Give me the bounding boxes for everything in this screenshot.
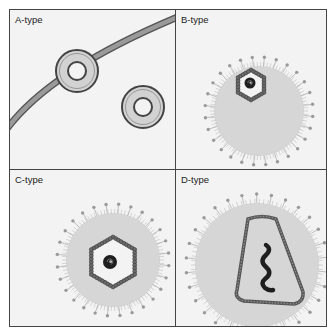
- spike-stalk: [214, 83, 221, 87]
- spike-stalk: [263, 58, 264, 66]
- spike-knob: [323, 285, 326, 288]
- spike-stalk: [190, 244, 198, 246]
- envelope-fringe: [298, 88, 302, 90]
- envelope-fringe: [66, 279, 71, 281]
- envelope-fringe: [201, 230, 205, 233]
- spike-knob: [64, 229, 67, 232]
- spike-stalk: [282, 201, 285, 208]
- spike-stalk: [282, 322, 285, 326]
- spike-knob: [303, 137, 306, 140]
- envelope-fringe: [133, 301, 135, 305]
- spike-knob: [58, 240, 61, 243]
- spike-stalk: [118, 205, 119, 213]
- spike-stalk: [252, 58, 253, 66]
- envelope-fringe: [228, 320, 230, 324]
- spike-knob: [118, 314, 121, 317]
- envelope-fringe: [216, 132, 220, 134]
- spike-knob: [141, 211, 144, 214]
- spike-stalk: [95, 305, 98, 313]
- spike-knob: [240, 194, 243, 197]
- spike-stalk: [61, 276, 69, 279]
- envelope-fringe: [286, 72, 289, 76]
- spike-knob: [82, 306, 85, 309]
- envelope-fringe: [214, 91, 219, 93]
- spike-knob: [270, 194, 273, 197]
- panel-d-type: D-type: [176, 170, 326, 326]
- spike-knob: [219, 72, 222, 75]
- spike-knob: [323, 241, 326, 244]
- spike-knob: [204, 116, 207, 119]
- panel-b-type: B-type: [176, 10, 326, 170]
- envelope-fringe: [295, 137, 299, 140]
- spike-knob: [185, 256, 188, 259]
- envelope-fringe: [286, 146, 289, 150]
- spike-knob: [229, 155, 232, 158]
- envelope-fringe: [91, 301, 93, 305]
- spike-knob: [92, 206, 95, 209]
- spike-knob: [311, 115, 314, 118]
- spike-knob: [213, 206, 216, 209]
- spike-knob: [164, 239, 167, 242]
- spike-knob: [203, 311, 206, 314]
- spike-knob: [167, 251, 170, 254]
- spike-knob: [151, 297, 154, 300]
- envelope-fringe: [284, 70, 287, 74]
- envelope-fringe: [232, 147, 235, 151]
- spike-knob: [214, 321, 217, 324]
- spike-knob: [59, 277, 62, 280]
- spike-stalk: [270, 196, 272, 204]
- spike-stalk: [160, 265, 168, 266]
- spike-knob: [285, 63, 288, 66]
- spike-stalk: [119, 307, 120, 315]
- spike-knob: [308, 311, 311, 314]
- envelope-fringe: [150, 230, 154, 233]
- envelope-fringe: [311, 234, 315, 236]
- nucleoid-center: [109, 260, 112, 263]
- spike-knob: [81, 211, 84, 214]
- spike-knob: [207, 128, 210, 131]
- spike-knob: [158, 228, 161, 231]
- envelope-fringe: [288, 318, 291, 322]
- spike-knob: [264, 163, 267, 166]
- envelope-fringe: [154, 236, 158, 238]
- spike-stalk: [58, 255, 66, 256]
- envelope-fringe: [204, 301, 208, 304]
- envelope-fringe: [82, 220, 85, 224]
- envelope-fringe: [66, 239, 71, 241]
- envelope-fringe: [150, 287, 154, 290]
- figure-frame: A-type B-type C-type D-type: [9, 9, 327, 327]
- spike-stalk: [147, 293, 153, 299]
- spike-stalk: [316, 284, 324, 286]
- envelope-fringe: [74, 227, 78, 230]
- envelope-fringe: [278, 151, 280, 155]
- spike-knob: [206, 92, 209, 95]
- envelope-fringe: [204, 226, 208, 229]
- envelope-fringe: [288, 208, 291, 212]
- envelope-fringe: [197, 290, 202, 292]
- spike-stalk: [294, 315, 299, 321]
- spike-stalk: [197, 296, 204, 300]
- spike-stalk: [128, 208, 131, 216]
- free-particle: [122, 86, 164, 128]
- spike-knob: [297, 206, 300, 209]
- spike-stalk: [230, 66, 234, 73]
- envelope-fringe: [301, 307, 305, 310]
- envelope-fringe: [238, 67, 240, 71]
- envelope-fringe: [82, 296, 85, 300]
- spike-knob: [295, 71, 298, 74]
- envelope-fringe: [295, 82, 299, 85]
- spike-stalk: [157, 241, 165, 244]
- envelope-fringe: [295, 213, 298, 217]
- spike-knob: [117, 203, 120, 206]
- envelope-fringe: [221, 80, 225, 83]
- nucleoid: [103, 255, 117, 269]
- spike-knob: [239, 59, 242, 62]
- spike-stalk: [319, 257, 326, 258]
- envelope-fringe: [229, 146, 232, 150]
- spike-knob: [56, 253, 59, 256]
- envelope-fringe: [313, 290, 318, 292]
- spike-knob: [276, 160, 279, 163]
- envelope-fringe: [213, 310, 216, 314]
- envelope-fringe: [235, 69, 238, 73]
- envelope-fringe: [219, 82, 223, 85]
